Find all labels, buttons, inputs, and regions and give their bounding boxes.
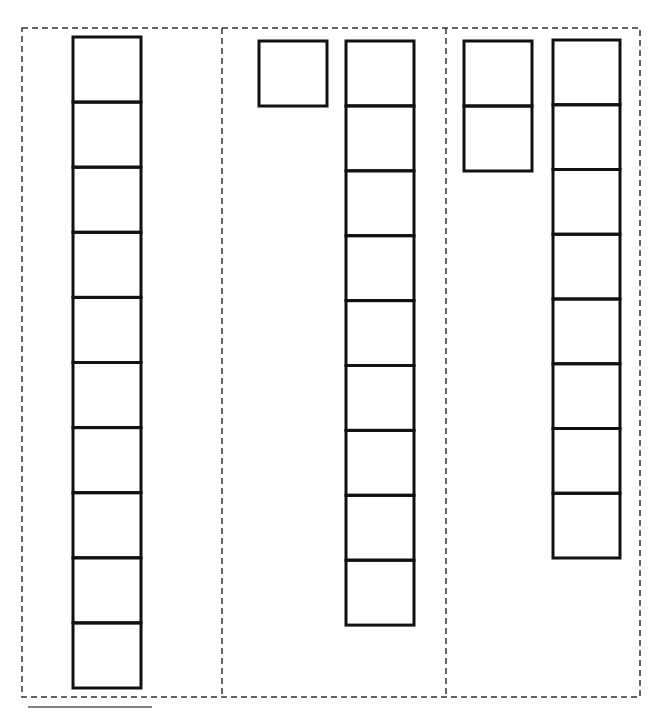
block-diagram xyxy=(0,0,661,712)
panel-3 xyxy=(464,40,620,558)
unit-block xyxy=(73,428,141,493)
unit-block xyxy=(346,236,414,301)
unit-block xyxy=(259,41,327,106)
unit-block xyxy=(73,232,141,297)
block-stack-2 xyxy=(464,41,532,171)
block-stack-8 xyxy=(553,40,620,558)
panel-2 xyxy=(259,41,414,625)
unit-block xyxy=(346,430,414,495)
unit-block xyxy=(346,366,414,431)
block-stack-9 xyxy=(346,41,414,625)
unit-block xyxy=(73,493,141,558)
unit-block xyxy=(346,171,414,236)
unit-block xyxy=(464,41,532,106)
panel-1 xyxy=(73,37,141,688)
block-stacks xyxy=(73,37,620,688)
unit-block xyxy=(73,623,141,688)
unit-block xyxy=(553,105,620,170)
unit-block xyxy=(73,167,141,232)
unit-block xyxy=(553,299,620,364)
unit-block xyxy=(553,170,620,235)
unit-block xyxy=(346,106,414,171)
block-stack-1 xyxy=(259,41,327,106)
unit-block xyxy=(346,495,414,560)
unit-block xyxy=(553,40,620,105)
unit-block xyxy=(553,429,620,494)
unit-block xyxy=(73,558,141,623)
unit-block xyxy=(346,560,414,625)
unit-block xyxy=(553,234,620,299)
unit-block xyxy=(73,363,141,428)
unit-block xyxy=(73,37,141,102)
block-stack-10 xyxy=(73,37,141,688)
unit-block xyxy=(464,106,532,171)
unit-block xyxy=(553,364,620,429)
unit-block xyxy=(553,493,620,558)
unit-block xyxy=(346,41,414,106)
unit-block xyxy=(73,102,141,167)
unit-block xyxy=(346,301,414,366)
unit-block xyxy=(73,297,141,362)
